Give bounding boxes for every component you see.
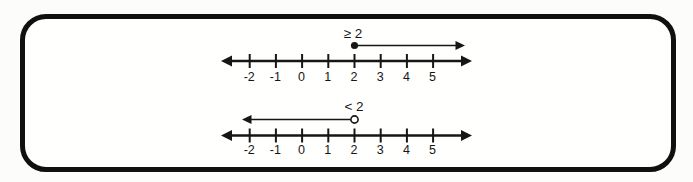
- inequality-label-lt-2: < 2: [344, 100, 363, 114]
- axis-arrow-right-icon: [461, 130, 472, 141]
- open-point: [351, 116, 358, 123]
- closed-point: [351, 42, 358, 49]
- tick-label: 3: [377, 143, 384, 157]
- tick-label: 1: [324, 70, 331, 84]
- ray-arrow-icon: [456, 41, 466, 50]
- worksheet-canvas: -2-1012345-2-1012345 ≥ 2 < 2: [0, 0, 693, 182]
- tick-label: -1: [270, 143, 281, 157]
- axis-arrow-left-icon: [221, 56, 232, 67]
- tick-label: 4: [403, 143, 410, 157]
- tick-label: 0: [298, 143, 305, 157]
- axis-arrow-right-icon: [461, 56, 472, 67]
- tick-label: -1: [270, 70, 281, 84]
- number-line-figure-0: -2-1012345: [221, 41, 472, 83]
- tick-label: 1: [324, 143, 331, 157]
- inequality-label-ge-2: ≥ 2: [344, 27, 363, 41]
- tick-label: 3: [377, 70, 384, 84]
- number-line-figure-1: -2-1012345: [221, 115, 472, 157]
- tick-label: 5: [429, 70, 436, 84]
- tick-label: 2: [351, 70, 358, 84]
- ray-arrow-icon: [242, 115, 252, 124]
- tick-label: 0: [298, 70, 305, 84]
- tick-label: -2: [244, 143, 255, 157]
- tick-label: 5: [429, 143, 436, 157]
- axis-arrow-left-icon: [221, 130, 232, 141]
- tick-label: -2: [244, 70, 255, 84]
- tick-label: 4: [403, 70, 410, 84]
- tick-label: 2: [351, 143, 358, 157]
